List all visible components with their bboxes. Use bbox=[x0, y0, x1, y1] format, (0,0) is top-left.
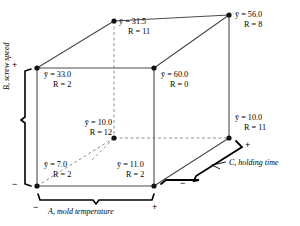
corner-label-back-top-right: ȳ = 56.0 R = 8 bbox=[235, 10, 262, 30]
corner-range-front-top-left: R = 2 bbox=[44, 80, 71, 90]
corner-range-front-bottom-left: R = 2 bbox=[44, 170, 71, 180]
edge-depth-top-left bbox=[37, 21, 114, 68]
corner-label-front-bottom-right: ȳ = 11.0 R = 2 bbox=[117, 160, 144, 180]
corner-range-back-bottom-left: R = 12 bbox=[40, 128, 112, 138]
vertex-front-top-left bbox=[34, 65, 39, 70]
sign-b-low: − bbox=[12, 180, 17, 189]
sign-c-low: − bbox=[180, 179, 185, 188]
axis-label-b-screw-speed: B, screw speed bbox=[2, 43, 11, 90]
sign-a-high: + bbox=[152, 203, 157, 212]
vertex-back-bottom-left bbox=[111, 135, 116, 140]
corner-label-back-bottom-right: ȳ = 10.0 R = 11 bbox=[235, 113, 266, 133]
corner-mean-front-bottom-right: ȳ = 11.0 bbox=[117, 160, 144, 169]
corner-range-back-bottom-right: R = 11 bbox=[235, 123, 266, 133]
a-axis-bracket bbox=[38, 194, 154, 204]
vertex-back-top-right bbox=[226, 12, 231, 17]
corner-label-front-top-right: ȳ = 60.0 R = 0 bbox=[161, 70, 188, 90]
axis-label-c-holding-time: C, holding time bbox=[229, 158, 279, 167]
corner-mean-front-bottom-left: ȳ = 7.0 bbox=[44, 160, 67, 169]
sign-c-high: + bbox=[245, 141, 250, 150]
edge-depth-top-right bbox=[154, 15, 229, 68]
corner-label-front-top-left: ȳ = 33.0 R = 2 bbox=[44, 70, 71, 90]
vertex-front-top-right bbox=[151, 65, 156, 70]
vertex-front-bottom-right bbox=[151, 183, 156, 188]
sign-a-low: − bbox=[33, 203, 38, 212]
axis-label-b-text: B, screw speed bbox=[2, 43, 11, 90]
b-axis-bracket bbox=[21, 69, 31, 186]
corner-label-back-top-left: ȳ = 31.5 R = 11 bbox=[119, 17, 150, 37]
corner-label-front-bottom-left: ȳ = 7.0 R = 2 bbox=[44, 160, 71, 180]
axis-label-c-text: C, holding time bbox=[229, 158, 279, 167]
axis-label-a-text: A, mold temperature bbox=[48, 207, 114, 216]
corner-range-front-bottom-right: R = 2 bbox=[117, 170, 144, 180]
sign-b-high: + bbox=[12, 61, 17, 70]
corner-mean-back-bottom-left: ȳ = 10.0 bbox=[85, 118, 112, 127]
corner-mean-front-top-right: ȳ = 60.0 bbox=[161, 70, 188, 79]
corner-range-front-top-right: R = 0 bbox=[161, 80, 188, 90]
corner-mean-front-top-left: ȳ = 33.0 bbox=[44, 70, 71, 79]
vertex-front-bottom-left bbox=[34, 183, 39, 188]
vertex-back-bottom-right bbox=[226, 135, 231, 140]
corner-mean-back-top-left: ȳ = 31.5 bbox=[119, 17, 146, 26]
corner-range-back-top-left: R = 11 bbox=[119, 27, 150, 37]
vertex-back-top-left bbox=[111, 18, 116, 23]
corner-mean-back-bottom-right: ȳ = 10.0 bbox=[235, 113, 262, 122]
corner-mean-back-top-right: ȳ = 56.0 bbox=[235, 10, 262, 19]
corner-range-back-top-right: R = 8 bbox=[235, 20, 262, 30]
cube-plot-figure: ȳ = 31.5 R = 11 ȳ = 56.0 R = 8 ȳ = 33.0 … bbox=[0, 0, 300, 226]
axis-label-a-mold-temperature: A, mold temperature bbox=[48, 207, 114, 216]
corner-label-back-bottom-left: ȳ = 10.0 R = 12 bbox=[40, 118, 112, 138]
